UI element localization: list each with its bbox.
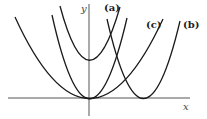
parabola-diagram: y x (a) (c) (b)	[0, 0, 207, 119]
label-a: (a)	[104, 2, 120, 13]
x-axis-label: x	[183, 101, 189, 112]
y-axis-label: y	[80, 3, 87, 14]
label-b: (b)	[183, 19, 199, 30]
label-c: (c)	[146, 19, 162, 30]
